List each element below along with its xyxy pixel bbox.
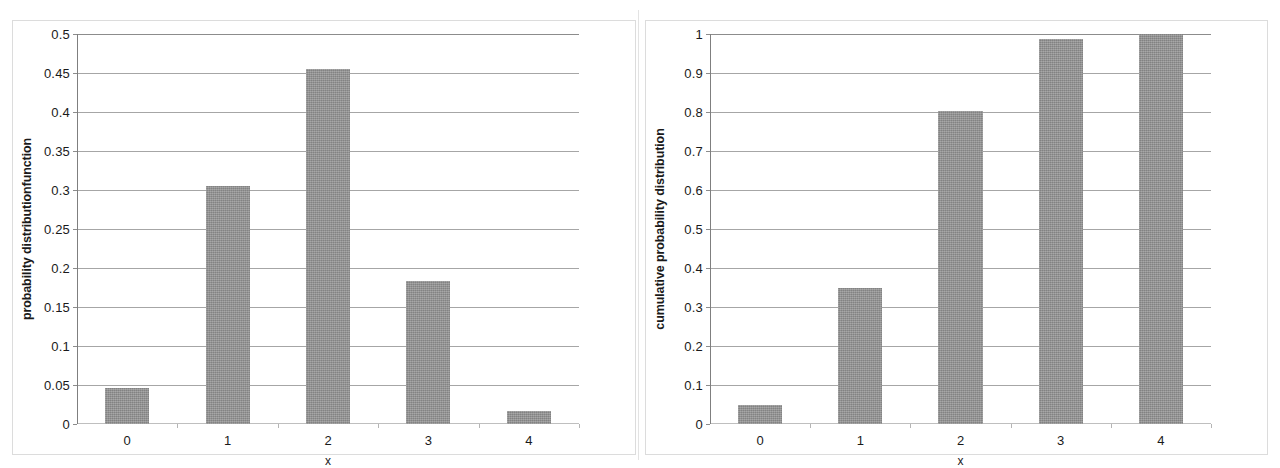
y-axis-title-pdf: probability distributionfunction [20,138,34,320]
gridline [710,34,1211,35]
bar [105,388,149,424]
x-axis-tick-label: 0 [756,433,763,448]
plot-inner-cdf: 00.10.20.30.40.50.60.70.80.9101234 [710,34,1211,424]
chart-probability-distribution-function: 00.050.10.150.20.250.30.350.40.450.50123… [12,20,636,455]
plot-inner-pdf: 00.050.10.150.20.250.30.350.40.450.50123… [77,34,579,424]
y-axis-tick-label: 0.5 [684,222,703,237]
y-axis-tick [73,424,77,425]
bar [938,111,982,424]
y-axis-tick-label: 0 [696,417,703,432]
gridline [77,34,579,35]
x-axis-tick-label: 0 [124,433,131,448]
plot-area-cdf: 00.10.20.30.40.50.60.70.80.9101234 cumul… [710,34,1211,424]
y-axis-tick-label: 0.05 [44,378,70,393]
x-axis-tick [378,424,379,428]
y-axis-tick-label: 0.7 [684,144,703,159]
y-axis-tick-label: 0.2 [684,339,703,354]
x-axis-tick [278,424,279,428]
bar [507,411,551,424]
x-axis-tick [579,424,580,428]
y-axis-tick-label: 0.35 [44,144,70,159]
bar [1039,39,1083,424]
x-axis-tick-label: 3 [1057,433,1064,448]
y-axis-tick-label: 0.5 [51,27,70,42]
x-axis-tick-label: 4 [1157,433,1164,448]
figure-canvas: 00.050.10.150.20.250.30.350.40.450.50123… [0,0,1280,468]
y-axis-tick [706,424,710,425]
x-axis-title-cdf: x [958,454,964,468]
bar [206,186,250,424]
panel-divider [638,10,639,460]
bar [738,405,782,424]
y-axis-tick-label: 0.15 [44,300,70,315]
y-axis-tick-label: 0.3 [684,300,703,315]
x-axis-tick [1211,424,1212,428]
x-axis-tick-label: 3 [425,433,432,448]
y-axis-tick-label: 0.3 [51,183,70,198]
x-axis-tick [479,424,480,428]
x-axis-title-pdf: x [325,454,331,468]
x-axis-tick [1011,424,1012,428]
y-axis-title-cdf: cumulative probability distribution [653,128,667,329]
x-axis-tick-label: 4 [525,433,532,448]
gridline [710,73,1211,74]
y-axis-tick-label: 0.2 [51,261,70,276]
x-axis-tick [177,424,178,428]
bar [838,288,882,425]
y-axis-tick-label: 0.9 [684,66,703,81]
y-axis-tick-label: 0.6 [684,183,703,198]
bar [306,69,350,424]
y-axis-tick-label: 0.25 [44,222,70,237]
y-axis-tick-label: 0.4 [51,105,70,120]
x-axis-tick [910,424,911,428]
bar [1139,34,1183,424]
y-axis-tick-label: 0 [63,417,70,432]
y-axis-line [77,34,78,424]
plot-area-pdf: 00.050.10.150.20.250.30.350.40.450.50123… [77,34,579,424]
x-axis-tick-label: 1 [857,433,864,448]
y-axis-line [710,34,711,424]
x-axis-tick [1111,424,1112,428]
x-axis-tick-label: 1 [224,433,231,448]
x-axis-tick [810,424,811,428]
y-axis-tick-label: 0.45 [44,66,70,81]
chart-cumulative-probability-distribution: 00.10.20.30.40.50.60.70.80.9101234 cumul… [645,20,1268,455]
bar [406,281,450,424]
y-axis-tick-label: 0.1 [684,378,703,393]
x-axis-tick-label: 2 [324,433,331,448]
y-axis-tick-label: 1 [696,27,703,42]
x-axis-tick-label: 2 [957,433,964,448]
y-axis-tick-label: 0.1 [51,339,70,354]
y-axis-tick-label: 0.4 [684,261,703,276]
y-axis-tick-label: 0.8 [684,105,703,120]
